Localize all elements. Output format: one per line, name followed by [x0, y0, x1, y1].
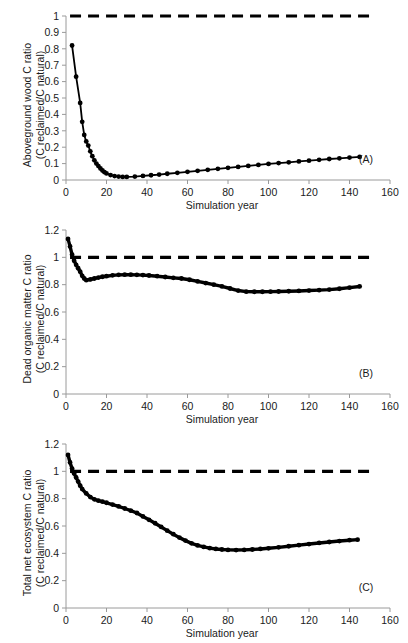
- data-point: [128, 508, 133, 513]
- data-point: [100, 274, 105, 279]
- data-point: [220, 284, 225, 289]
- data-point: [244, 289, 249, 294]
- panel-a: 02040608010012014016000.10.20.30.40.50.6…: [0, 0, 408, 214]
- y-tick-label: 0: [53, 388, 59, 400]
- data-point: [250, 547, 255, 552]
- y-tick-label: 0.2: [44, 574, 59, 586]
- data-point: [76, 479, 81, 484]
- x-tick-label: 80: [222, 400, 234, 412]
- data-point: [80, 119, 85, 124]
- data-point: [157, 172, 162, 177]
- y-tick-label: 0.2: [44, 360, 59, 372]
- data-point: [104, 274, 109, 279]
- data-point: [187, 277, 192, 282]
- panel-a-plot: 02040608010012014016000.10.20.30.40.50.6…: [0, 0, 408, 214]
- data-point: [141, 273, 146, 278]
- panel-c-plot: 02040608010012014016000.20.40.60.811.2 T…: [0, 428, 408, 642]
- data-point: [213, 547, 218, 552]
- data-point: [337, 156, 342, 161]
- data-point: [110, 273, 115, 278]
- data-point: [171, 532, 176, 537]
- data-point: [228, 286, 233, 291]
- data-point: [246, 163, 251, 168]
- panel-b: 02040608010012014016000.20.40.60.811.2 D…: [0, 214, 408, 428]
- y-tick-label: 0.8: [44, 492, 59, 504]
- data-point: [307, 542, 312, 547]
- data-point: [92, 276, 97, 281]
- y-tick-label: 0.3: [44, 125, 59, 137]
- y-tick-label: 0.4: [44, 547, 59, 559]
- x-tick-label: 0: [63, 400, 69, 412]
- data-point: [134, 511, 139, 516]
- data-point: [159, 525, 164, 530]
- data-point: [286, 544, 291, 549]
- data-point: [84, 491, 89, 496]
- x-tick-label: 140: [341, 400, 359, 412]
- data-point: [108, 173, 113, 178]
- y-tick-label: 0.6: [44, 75, 59, 87]
- data-point: [266, 546, 271, 551]
- data-point: [337, 539, 342, 544]
- data-point: [66, 236, 71, 241]
- data-point: [80, 487, 85, 492]
- data-point: [155, 274, 160, 279]
- data-point: [327, 540, 332, 545]
- x-tick-label: 160: [381, 614, 399, 626]
- panel-c-ylabel-line1: Total net ecosystem C ratio: [21, 470, 33, 597]
- data-point: [256, 163, 261, 168]
- data-point: [88, 495, 93, 500]
- data-point: [70, 252, 75, 257]
- data-point: [147, 273, 152, 278]
- data-point: [347, 285, 352, 290]
- data-point: [317, 157, 322, 162]
- data-point: [149, 173, 154, 178]
- data-point: [72, 471, 77, 476]
- data-point: [96, 498, 101, 503]
- x-tick-label: 120: [300, 614, 318, 626]
- data-point: [68, 244, 73, 249]
- data-point: [78, 269, 83, 274]
- x-tick-label: 120: [300, 400, 318, 412]
- panel-c-series: [66, 453, 370, 553]
- data-point: [189, 541, 194, 546]
- x-tick-label: 80: [222, 614, 234, 626]
- figure-container: 02040608010012014016000.10.20.30.40.50.6…: [0, 0, 408, 643]
- data-point: [207, 546, 212, 551]
- data-point: [201, 545, 206, 550]
- x-tick-label: 0: [63, 614, 69, 626]
- data-point: [84, 139, 89, 144]
- panel-a-ylabel-line2: (C reclaimed/C natural): [34, 51, 46, 160]
- data-point: [296, 159, 301, 164]
- y-tick-label: 0.4: [44, 333, 59, 345]
- panel-c-ylabel-line2: (C reclaimed/C natural): [34, 479, 46, 588]
- data-point: [132, 174, 137, 179]
- data-point: [242, 548, 247, 553]
- data-point: [165, 171, 170, 176]
- data-point: [116, 504, 121, 509]
- x-tick-label: 0: [63, 186, 69, 198]
- data-point: [296, 543, 301, 548]
- x-tick-label: 20: [101, 614, 113, 626]
- data-point: [134, 272, 139, 277]
- panel-b-axes: 02040608010012014016000.20.40.60.811.2: [44, 224, 399, 412]
- data-line: [72, 46, 360, 177]
- data-point: [357, 284, 362, 289]
- data-point: [307, 288, 312, 293]
- y-tick-label: 0.8: [44, 278, 59, 290]
- data-point: [252, 289, 257, 294]
- data-point: [84, 278, 89, 283]
- data-point: [153, 521, 158, 526]
- data-point: [70, 43, 75, 48]
- y-tick-label: 0: [53, 174, 59, 186]
- data-point: [268, 289, 273, 294]
- y-tick-label: 1: [53, 251, 59, 263]
- data-point: [347, 155, 352, 160]
- data-point: [236, 288, 241, 293]
- data-point: [72, 258, 77, 263]
- data-point: [147, 517, 152, 522]
- x-tick-label: 140: [341, 186, 359, 198]
- x-tick-label: 60: [182, 614, 194, 626]
- data-point: [88, 277, 93, 282]
- data-point: [286, 160, 291, 165]
- x-tick-label: 60: [182, 186, 194, 198]
